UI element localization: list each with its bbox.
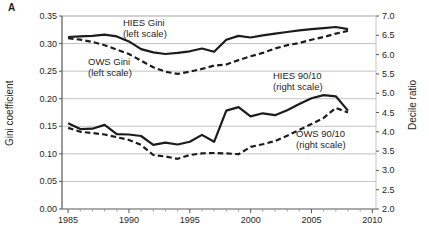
y-right-tick-label: 4.5 (382, 108, 395, 118)
y-left-tick-label: 0.30 (39, 39, 57, 49)
y-left-tick-label: 0.35 (39, 11, 57, 21)
y-right-tick-label: 4.0 (382, 127, 395, 137)
y-left-tick-label: 0.10 (39, 149, 57, 159)
series-annotation: (left scale) (123, 28, 167, 39)
y-right-tick-label: 3.0 (382, 165, 395, 175)
y-left-tick-label: 0.25 (39, 66, 57, 76)
y-right-tick-label: 2.5 (382, 185, 395, 195)
series-annotation: (right scale) (273, 81, 323, 92)
y-right-tick-label: 7.0 (382, 11, 395, 21)
x-tick-label: 2000 (241, 215, 261, 225)
series-annotation: HIES Gini (123, 17, 165, 28)
y-right-tick-label: 2.0 (382, 204, 395, 214)
y-left-tick-label: 0.20 (39, 94, 57, 104)
chart-plot-area: 0.000.050.100.150.200.250.300.352.02.53.… (0, 0, 429, 240)
series-annotation: HIES 90/10 (273, 70, 322, 81)
series-annotation: (left scale) (88, 67, 132, 78)
series-line-hies-gini (68, 27, 348, 54)
series-annotation: OWS Gini (88, 56, 130, 67)
x-tick-label: 2010 (362, 215, 382, 225)
series-annotation: OWS 90/10 (296, 128, 345, 139)
y-left-tick-label: 0.05 (39, 176, 57, 186)
x-tick-label: 2005 (301, 215, 321, 225)
y-left-tick-label: 0.00 (39, 204, 57, 214)
x-tick-label: 1990 (119, 215, 139, 225)
y-right-tick-label: 3.5 (382, 146, 395, 156)
y-right-tick-label: 5.0 (382, 88, 395, 98)
x-tick-label: 1995 (180, 215, 200, 225)
y-left-tick-label: 0.15 (39, 121, 57, 131)
y-right-tick-label: 5.5 (382, 69, 395, 79)
y-right-tick-label: 6.5 (382, 30, 395, 40)
x-tick-label: 1985 (58, 215, 78, 225)
dual-axis-line-chart-figure: A Gini coefficient Decile ratio 0.000.05… (0, 0, 429, 240)
series-annotation: (right scale) (296, 139, 346, 150)
y-right-tick-label: 6.0 (382, 50, 395, 60)
